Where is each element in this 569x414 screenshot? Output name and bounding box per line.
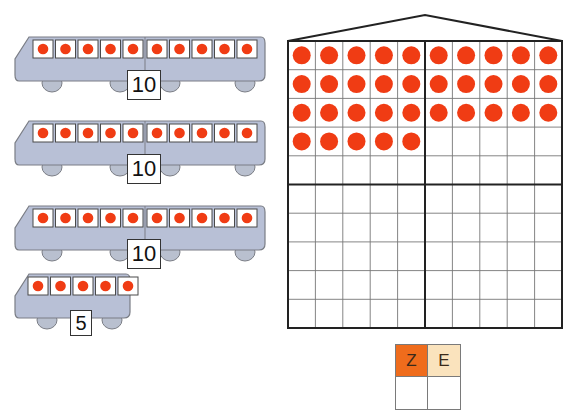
passenger-dot-icon [219,128,230,139]
counter-dot-icon [512,75,530,93]
counter-dot-icon [293,75,311,93]
counter-dot-icon [402,75,420,93]
bus-count-label: 5 [70,310,92,336]
counter-dot-icon [375,75,393,93]
hundred-grid [280,0,569,340]
passenger-dot-icon [38,213,49,224]
counter-dot-icon [293,132,311,150]
counter-dot-icon [512,46,530,64]
bus-count-label: 10 [127,154,161,184]
counter-dot-icon [539,104,557,122]
passenger-dot-icon [78,281,89,292]
counter-dot-icon [320,46,338,64]
counter-dot-icon [430,75,448,93]
passenger-dot-icon [174,44,185,55]
tens-answer-field[interactable] [395,376,428,410]
counter-dot-icon [402,46,420,64]
counter-dot-icon [320,75,338,93]
passenger-dot-icon [105,128,116,139]
counter-dot-icon [402,132,420,150]
counter-dot-icon [539,75,557,93]
counter-dot-icon [457,104,475,122]
passenger-dot-icon [174,128,185,139]
counter-dot-icon [348,75,366,93]
passenger-dot-icon [60,44,71,55]
passenger-dot-icon [128,213,139,224]
counter-dot-icon [402,104,420,122]
counter-dot-icon [348,104,366,122]
ones-header: E [427,344,461,377]
passenger-dot-icon [174,213,185,224]
passenger-dot-icon [123,281,134,292]
counter-dot-icon [485,75,503,93]
buses-panel: 1010105 [0,0,280,414]
counter-dot-icon [539,46,557,64]
bus-count-label: 10 [127,239,161,269]
passenger-dot-icon [242,213,253,224]
passenger-dot-icon [100,281,111,292]
passenger-dot-icon [197,128,208,139]
counter-dot-icon [457,75,475,93]
passenger-dot-icon [197,213,208,224]
passenger-dot-icon [38,44,49,55]
passenger-dot-icon [33,281,44,292]
counter-dot-icon [457,46,475,64]
passenger-dot-icon [83,128,94,139]
passenger-dot-icon [55,281,66,292]
passenger-dot-icon [128,128,139,139]
counter-dot-icon [485,104,503,122]
passenger-dot-icon [105,44,116,55]
passenger-dot-icon [219,213,230,224]
ones-answer-field[interactable] [427,376,461,410]
passenger-dot-icon [83,213,94,224]
counter-dot-icon [348,46,366,64]
passenger-dot-icon [105,213,116,224]
counter-dot-icon [293,104,311,122]
passenger-dot-icon [60,213,71,224]
counter-dot-icon [375,46,393,64]
roof [288,15,562,41]
counter-dot-icon [485,46,503,64]
passenger-dot-icon [219,44,230,55]
tens-header: Z [395,344,428,377]
counter-dot-icon [512,104,530,122]
bus-count-label: 10 [127,70,161,100]
counter-dot-icon [320,132,338,150]
counter-dot-icon [375,132,393,150]
passenger-dot-icon [83,44,94,55]
passenger-dot-icon [38,128,49,139]
counter-dot-icon [293,46,311,64]
counter-dot-icon [430,104,448,122]
passenger-dot-icon [152,213,163,224]
counter-dot-icon [320,104,338,122]
place-value-table: Z E [395,344,461,410]
bus-illustrations [0,0,280,414]
passenger-dot-icon [197,44,208,55]
hundred-house-grid [280,0,569,340]
passenger-dot-icon [152,128,163,139]
passenger-dot-icon [60,128,71,139]
counter-dot-icon [375,104,393,122]
passenger-dot-icon [242,128,253,139]
counter-dot-icon [348,132,366,150]
passenger-dot-icon [242,44,253,55]
counter-dot-icon [430,46,448,64]
passenger-dot-icon [152,44,163,55]
passenger-dot-icon [128,44,139,55]
